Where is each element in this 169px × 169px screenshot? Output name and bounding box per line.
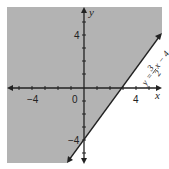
x-label-pos4: 4 xyxy=(133,94,139,105)
coordinate-plane: −4 0 4 x 4 −4 y y = 3 2 x − 4 xyxy=(0,0,169,169)
y-label-pos4: 4 xyxy=(74,30,80,41)
x-label-neg4: −4 xyxy=(27,94,39,105)
origin-label: 0 xyxy=(72,94,78,105)
x-axis-label: x xyxy=(154,89,160,101)
eq-rest: x − 4 xyxy=(151,48,169,71)
y-axis-down-arrow-icon xyxy=(81,158,87,164)
y-label-neg4: −4 xyxy=(68,135,80,146)
y-axis-label: y xyxy=(88,6,94,18)
